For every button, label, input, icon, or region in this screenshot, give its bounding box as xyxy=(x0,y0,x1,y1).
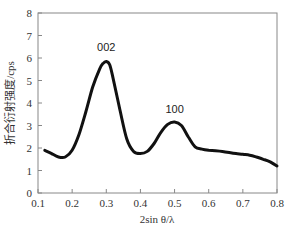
x-tick-label: 0.8 xyxy=(270,197,284,209)
y-tick-label: 7 xyxy=(27,30,33,42)
x-tick-label: 0.5 xyxy=(168,197,182,209)
peak-label: 002 xyxy=(97,41,115,53)
x-tick-label: 0.6 xyxy=(202,197,216,209)
x-tick-label: 0.4 xyxy=(134,197,148,209)
y-tick-label: 1 xyxy=(27,165,33,177)
x-tick-label: 0.1 xyxy=(31,197,45,209)
y-tick-label: 3 xyxy=(27,120,33,132)
plot-frame xyxy=(38,13,277,193)
peak-annotations: 002100 xyxy=(97,41,184,115)
y-tick-label: 4 xyxy=(27,97,33,109)
x-axis-ticks: 0.10.20.30.40.50.60.70.8 xyxy=(31,189,284,209)
y-tick-label: 6 xyxy=(27,52,33,64)
y-axis-ticks: 012345678 xyxy=(27,7,43,199)
diffraction-curve xyxy=(45,61,277,166)
x-tick-label: 0.7 xyxy=(236,197,250,209)
y-tick-label: 8 xyxy=(27,7,33,19)
peak-label: 100 xyxy=(165,103,183,115)
y-tick-label: 2 xyxy=(27,142,33,154)
chart: 012345678 0.10.20.30.40.50.60.70.8 00210… xyxy=(0,0,285,232)
x-tick-label: 0.2 xyxy=(65,197,79,209)
x-axis-label: 2sin θ/λ xyxy=(140,213,175,225)
y-axis-label: 折合衍射强度/cps xyxy=(3,61,16,145)
y-tick-label: 5 xyxy=(27,75,33,87)
x-tick-label: 0.3 xyxy=(99,197,113,209)
